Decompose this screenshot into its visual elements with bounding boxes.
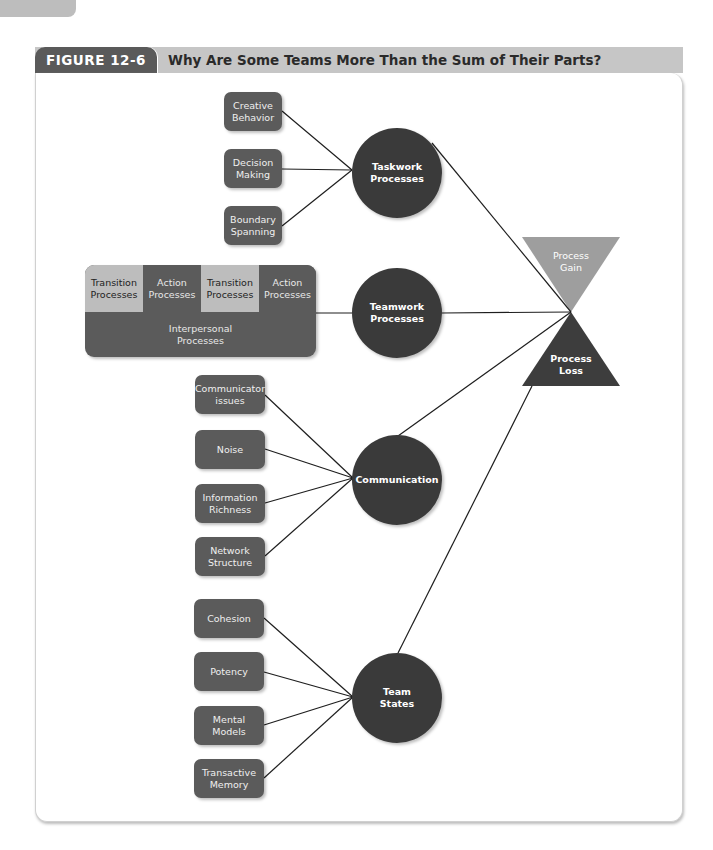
teamwork-process-box: Transition Processes Action Processes Tr… — [85, 265, 316, 357]
input-label: Potency — [210, 666, 248, 678]
input-label: Communicator issues — [195, 383, 265, 407]
input-noise: Noise — [195, 430, 265, 469]
process-loss-label: Process Loss — [531, 353, 611, 377]
node-communication: Communication — [352, 435, 442, 525]
cell-transition-processes-1: Transition Processes — [85, 265, 143, 312]
input-label: Noise — [217, 444, 243, 456]
input-label: Cohesion — [207, 613, 251, 625]
input-label: Network Structure — [208, 545, 252, 569]
node-teamwork-processes: Teamwork Processes — [352, 268, 442, 358]
input-creative-behavior: Creative Behavior — [224, 92, 282, 131]
input-communicator-issues: Communicator issues — [195, 375, 265, 414]
cell-action-processes-2: Action Processes — [259, 265, 316, 312]
input-label: Transactive Memory — [202, 767, 256, 791]
node-taskwork-processes: Taskwork Processes — [352, 128, 442, 218]
input-network-structure: Network Structure — [195, 537, 265, 576]
input-information-richness: Information Richness — [195, 484, 265, 523]
input-potency: Potency — [194, 652, 264, 691]
cell-action-processes-1: Action Processes — [143, 265, 201, 312]
input-label: Creative Behavior — [232, 100, 274, 124]
input-label: Boundary Spanning — [230, 214, 276, 238]
connector-lines — [0, 0, 713, 850]
node-team-states: Team States — [352, 653, 442, 743]
cell-transition-processes-2: Transition Processes — [201, 265, 259, 312]
input-boundary-spanning: Boundary Spanning — [224, 206, 282, 245]
process-gain-label: Process Gain — [531, 250, 611, 274]
input-transactive-memory: Transactive Memory — [194, 759, 264, 798]
input-mental-models: Mental Models — [194, 706, 264, 745]
input-label: Information Richness — [203, 492, 258, 516]
input-cohesion: Cohesion — [194, 599, 264, 638]
input-label: Decision Making — [233, 157, 273, 181]
process-gain-triangle — [522, 237, 620, 312]
input-label: Mental Models — [212, 714, 245, 738]
input-decision-making: Decision Making — [224, 149, 282, 188]
cell-interpersonal-processes: Interpersonal Processes — [85, 312, 316, 357]
